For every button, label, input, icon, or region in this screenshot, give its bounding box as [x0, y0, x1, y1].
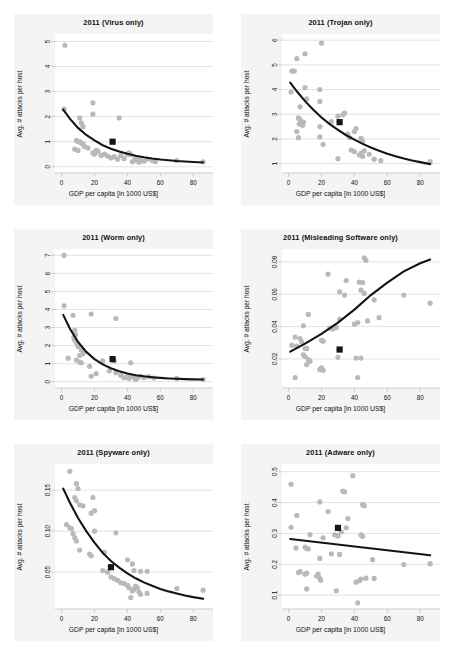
y-tick-label: 2 [272, 137, 279, 141]
average-marker [108, 564, 114, 570]
data-point [367, 152, 372, 157]
y-tick-label: 5 [45, 289, 52, 293]
y-tick-label: 0.1 [272, 590, 279, 599]
scatter-plot: 0.020.040.060.08020406080 [227, 215, 454, 430]
data-point [337, 289, 342, 294]
data-point [342, 292, 347, 297]
data-point [117, 115, 122, 120]
y-tick-label: 2 [45, 114, 52, 118]
data-point [363, 258, 368, 263]
data-point [130, 561, 135, 566]
data-point [352, 149, 357, 154]
data-point [355, 600, 360, 605]
data-point [360, 534, 365, 539]
x-tick-label: 0 [287, 615, 291, 622]
x-tick-label: 40 [124, 179, 132, 186]
chart-panel: 2011 (Trojan only)Avg. # attacks per hos… [227, 0, 454, 215]
data-point [292, 68, 297, 73]
y-tick-label: 4 [45, 64, 52, 68]
data-point [61, 253, 66, 258]
data-point [80, 124, 85, 129]
data-point [66, 356, 71, 361]
x-tick-label: 0 [60, 179, 64, 186]
data-point [89, 511, 94, 516]
data-point [355, 375, 360, 380]
data-point [75, 148, 80, 153]
data-point [372, 297, 377, 302]
x-tick-label: 20 [318, 394, 326, 401]
x-tick-label: 40 [351, 394, 359, 401]
x-tick-label: 20 [91, 179, 99, 186]
data-point [201, 588, 206, 593]
chart-panel: 2011 (Worm only)Avg. # attacks per hostG… [0, 215, 227, 430]
data-point [298, 569, 303, 574]
data-point [378, 158, 383, 163]
data-point [288, 482, 293, 487]
x-tick-label: 80 [417, 615, 425, 622]
chart-panel: 2011 (Adware only)Avg. # attacks per hos… [227, 430, 454, 651]
data-point [318, 578, 323, 583]
data-point [85, 145, 90, 150]
x-tick-label: 80 [190, 615, 198, 622]
data-point [335, 156, 340, 161]
y-tick-label: 0.5 [272, 467, 279, 476]
data-point [334, 588, 339, 593]
data-point [90, 112, 95, 117]
data-point [342, 489, 347, 494]
x-tick-label: 40 [124, 394, 132, 401]
data-point [94, 371, 99, 376]
average-marker [335, 525, 341, 531]
data-point [345, 516, 350, 521]
y-tick-label: 0.02 [272, 352, 279, 365]
data-point [304, 571, 309, 576]
data-point [71, 313, 76, 318]
data-point [335, 533, 340, 538]
data-point [128, 595, 133, 600]
y-tick-label: 1 [272, 161, 279, 165]
data-point [363, 576, 368, 581]
y-tick-label: 5 [272, 63, 279, 67]
data-point [131, 568, 136, 573]
data-point [365, 318, 370, 323]
y-tick-label: 1 [45, 361, 52, 365]
chart-panel: 2011 (Virus only)Avg. # attacks per host… [0, 0, 227, 215]
x-tick-label: 60 [384, 179, 392, 186]
x-tick-label: 40 [124, 615, 132, 622]
data-point [319, 41, 324, 46]
data-point [69, 526, 74, 531]
data-point [89, 553, 94, 558]
data-point [74, 481, 79, 486]
data-point [90, 100, 95, 105]
y-tick-label: 1 [45, 139, 52, 143]
scatter-plot: 01234567020406080 [0, 215, 227, 430]
data-point [428, 301, 433, 306]
data-point [289, 343, 294, 348]
x-tick-label: 0 [60, 394, 64, 401]
data-point [370, 557, 375, 562]
data-point [302, 85, 307, 90]
data-point [372, 157, 377, 162]
data-point [321, 535, 326, 540]
y-tick-label: 0 [45, 379, 52, 383]
data-point [335, 355, 340, 360]
data-point [358, 355, 363, 360]
data-point [317, 87, 322, 92]
average-marker [110, 139, 116, 145]
data-point [89, 374, 94, 379]
data-point [321, 142, 326, 147]
y-tick-label: 0.06 [272, 288, 279, 301]
data-point [298, 104, 303, 109]
data-point [145, 591, 150, 596]
y-tick-label: 7 [45, 253, 52, 257]
data-point [325, 509, 330, 514]
data-point [174, 586, 179, 591]
data-point [360, 154, 365, 159]
data-point [125, 557, 130, 562]
data-point [288, 525, 293, 530]
y-tick-label: 0.05 [45, 566, 52, 579]
x-tick-label: 40 [351, 179, 359, 186]
data-point [355, 320, 360, 325]
y-tick-label: 3 [45, 325, 52, 329]
x-tick-label: 60 [384, 394, 392, 401]
x-tick-label: 80 [190, 394, 198, 401]
